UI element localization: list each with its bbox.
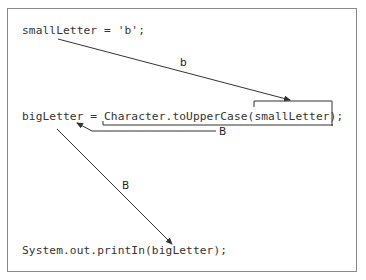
code-line-small-letter: smallLetter = 'b'; <box>22 24 145 37</box>
label-b-print: B <box>122 179 129 191</box>
arrow-big-to-print <box>57 129 172 244</box>
label-b-return: B <box>219 125 226 137</box>
arrows-layer <box>0 0 366 280</box>
label-b-lower: b <box>180 56 187 68</box>
diagram-canvas: smallLetter = 'b'; bigLetter = Character… <box>0 0 366 280</box>
arrow-small-to-arg <box>58 39 290 100</box>
arrow-return-value <box>77 123 216 131</box>
code-line-println: System.out.printIn(bigLetter); <box>22 244 227 257</box>
code-line-big-letter: bigLetter = Character.toUpperCase(smallL… <box>22 110 343 123</box>
